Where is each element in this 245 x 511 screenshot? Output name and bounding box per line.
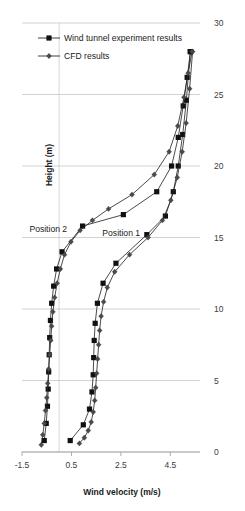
series-2 xyxy=(42,49,194,443)
y-tick-label-5: 5 xyxy=(214,376,219,386)
annotation-position-2: Position 2 xyxy=(29,224,67,234)
data-point-marker xyxy=(99,313,104,318)
x-axis-group xyxy=(22,452,200,456)
y-tick-label-20: 20 xyxy=(214,161,224,171)
legend-label: CFD results xyxy=(64,51,109,61)
data-point-marker xyxy=(45,381,50,386)
series-3 xyxy=(39,49,195,448)
legend-item-0: Wind tunnel experiment results xyxy=(38,33,182,43)
y-tick-label-25: 25 xyxy=(214,90,224,100)
series-line xyxy=(44,52,190,441)
y-tick-label-10: 10 xyxy=(214,304,224,314)
data-point-marker xyxy=(169,163,174,168)
data-point-marker xyxy=(89,419,94,424)
y-tick-label-30: 30 xyxy=(214,18,224,28)
data-point-marker xyxy=(81,422,86,427)
data-point-marker xyxy=(97,328,102,333)
x-tick-label-0.5: 0.5 xyxy=(66,460,78,470)
data-point-marker xyxy=(92,398,97,403)
data-point-marker xyxy=(187,86,192,91)
data-point-marker xyxy=(121,212,126,217)
legend-item-1: CFD results xyxy=(38,51,109,61)
series-1 xyxy=(77,49,195,446)
data-point-marker xyxy=(113,261,118,266)
x-tick-label-2.5: 2.5 xyxy=(115,460,127,470)
series-line xyxy=(70,52,190,441)
data-point-marker xyxy=(46,35,51,40)
x-axis-tick-labels: -1.50.52.54.5 xyxy=(15,460,177,470)
y-axis-title: Height (m) xyxy=(44,144,54,186)
y-tick-label-0: 0 xyxy=(214,447,219,457)
series-0 xyxy=(68,49,193,443)
y-tick-label-15: 15 xyxy=(214,233,224,243)
x-tick-label--1.5: -1.5 xyxy=(15,460,30,470)
data-point-marker xyxy=(89,389,94,394)
velocity-profile-chart: 051015202530 -1.50.52.54.5 Position 2Pos… xyxy=(0,0,245,511)
data-point-marker xyxy=(47,53,52,58)
legend-label: Wind tunnel experiment results xyxy=(64,33,182,43)
data-point-marker xyxy=(95,301,100,306)
data-point-marker xyxy=(93,321,98,326)
data-series-group xyxy=(39,49,195,448)
data-point-marker xyxy=(176,135,181,140)
data-point-marker xyxy=(167,149,172,154)
x-axis-title: Wind velocity (m/s) xyxy=(83,487,161,497)
y-axis-tick-labels: 051015202530 xyxy=(214,18,224,457)
data-point-marker xyxy=(46,386,51,391)
data-point-marker xyxy=(106,206,111,211)
data-point-marker xyxy=(68,438,73,443)
data-point-marker xyxy=(154,189,159,194)
data-point-marker xyxy=(96,342,101,347)
data-point-marker xyxy=(92,338,97,343)
series-line xyxy=(41,52,192,445)
data-point-marker xyxy=(87,407,92,412)
chart-canvas: 051015202530 -1.50.52.54.5 Position 2Pos… xyxy=(0,0,245,511)
chart-legend: Wind tunnel experiment resultsCFD result… xyxy=(38,33,182,61)
annotation-position-1: Position 1 xyxy=(102,228,140,238)
data-point-marker xyxy=(44,395,49,400)
data-point-marker xyxy=(100,281,105,286)
series-line xyxy=(79,52,192,444)
data-point-marker xyxy=(101,299,106,304)
data-point-marker xyxy=(168,198,173,203)
x-tick-label-4.5: 4.5 xyxy=(164,460,176,470)
data-point-marker xyxy=(86,428,91,433)
